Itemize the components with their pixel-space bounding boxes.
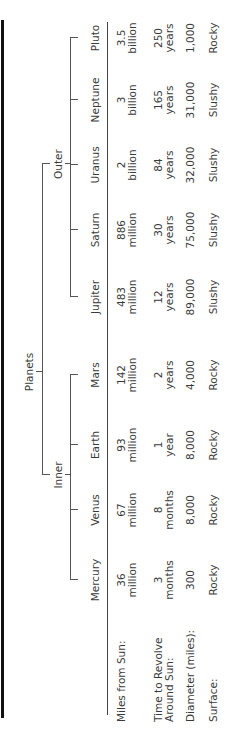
cell-earth-diameter: 8,000	[185, 430, 196, 460]
cell-jupiter-surface: Slushy	[208, 280, 219, 315]
column-header-mars: Mars	[90, 362, 101, 387]
tree-root-label: Planets	[24, 353, 35, 391]
rotated-planets-table: Planets Inner Outer Mercury Venus Earth …	[0, 0, 228, 744]
row-label-diameter: Diameter (miles):	[185, 630, 196, 722]
cell-neptune-miles: 3billion	[116, 84, 138, 115]
column-header-pluto: Pluto	[90, 25, 101, 51]
tree-mars-drop	[70, 374, 78, 375]
cell-jupiter-revolve: 12years	[153, 283, 175, 312]
cell-mars-diameter: 4,000	[185, 360, 196, 390]
cell-venus-revolve: 8months	[153, 490, 175, 530]
column-header-mercury: Mercury	[90, 559, 101, 602]
tree-root-bar	[42, 164, 43, 475]
column-header-earth: Earth	[90, 431, 101, 459]
tree-outer-bar	[70, 38, 71, 297]
cell-mars-miles: 142million	[116, 358, 138, 393]
row-label-miles: Miles from Sun:	[116, 641, 127, 722]
cell-pluto-miles: 3.5billion	[116, 22, 138, 53]
cell-jupiter-miles: 483million	[116, 280, 138, 315]
tree-uranus-drop	[70, 164, 78, 165]
cell-venus-diameter: 8,000	[185, 495, 196, 525]
cell-mars-revolve: 2years	[153, 361, 175, 390]
tree-saturn-drop	[70, 229, 78, 230]
cell-saturn-surface: Slushy	[208, 213, 219, 248]
tree-jupiter-drop	[70, 296, 78, 297]
cell-pluto-revolve: 250years	[153, 24, 175, 53]
column-header-saturn: Saturn	[90, 213, 101, 248]
cell-saturn-diameter: 75,000	[185, 212, 196, 249]
cell-venus-miles: 67million	[116, 493, 138, 528]
cell-earth-miles: 93million	[116, 428, 138, 463]
cell-earth-revolve: 1year	[153, 433, 175, 456]
cell-uranus-revolve: 84years	[153, 151, 175, 180]
cell-saturn-revolve: 30years	[153, 216, 175, 245]
cell-saturn-miles: 886million	[116, 213, 138, 248]
cell-neptune-revolve: 165years	[153, 86, 175, 115]
tree-mercury-drop	[70, 579, 78, 580]
cell-neptune-diameter: 31,000	[185, 82, 196, 119]
cell-uranus-miles: 2billion	[116, 149, 138, 180]
group-label-inner: Inner	[53, 461, 64, 488]
cell-pluto-surface: Rocky	[208, 23, 219, 54]
cell-pluto-diameter: 1,000	[185, 23, 196, 53]
cell-mercury-surface: Rocky	[208, 565, 219, 596]
column-header-jupiter: Jupiter	[90, 280, 101, 314]
row-label-revolve-line2: Around Sun:	[164, 657, 175, 722]
tree-pluto-drop	[70, 37, 78, 38]
cell-uranus-diameter: 32,000	[185, 147, 196, 184]
tree-earth-drop	[70, 444, 78, 445]
header-rule	[107, 22, 108, 715]
tree-inner-bar	[70, 375, 71, 580]
cell-earth-surface: Rocky	[208, 430, 219, 461]
column-header-venus: Venus	[90, 494, 101, 526]
cell-mercury-revolve: 3months	[153, 560, 175, 600]
tree-venus-drop	[70, 509, 78, 510]
column-header-uranus: Uranus	[90, 146, 101, 183]
cell-mercury-miles: 36million	[116, 563, 138, 598]
page-edge-bar	[1, 20, 4, 718]
column-header-neptune: Neptune	[90, 78, 101, 123]
cell-uranus-surface: Slushy	[208, 148, 219, 183]
tree-outer-drop	[42, 163, 50, 164]
cell-mars-surface: Rocky	[208, 360, 219, 391]
cell-mercury-diameter: 300	[185, 570, 196, 590]
group-label-outer: Outer	[53, 149, 64, 179]
row-label-surface: Surface:	[208, 678, 219, 722]
tree-neptune-drop	[70, 99, 78, 100]
tree-inner-drop	[42, 474, 50, 475]
cell-neptune-surface: Slushy	[208, 83, 219, 118]
cell-venus-surface: Rocky	[208, 495, 219, 526]
cell-jupiter-diameter: 89,000	[185, 279, 196, 316]
